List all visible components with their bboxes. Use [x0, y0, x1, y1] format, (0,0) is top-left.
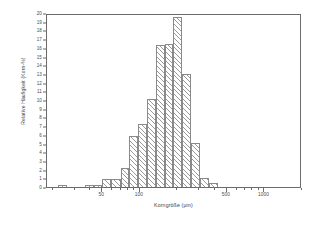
x-tick-mark-minor [301, 188, 302, 190]
x-tick-mark-minor [120, 188, 121, 190]
x-axis: 501005001000 [0, 0, 319, 227]
x-tick-mark-minor [198, 188, 199, 190]
x-tick-mark-minor [214, 188, 215, 190]
x-tick-mark-minor [251, 188, 252, 190]
x-tick-mark-major [139, 188, 140, 192]
x-tick-mark-minor [74, 188, 75, 190]
x-tick-mark-minor [258, 188, 259, 190]
x-tick-mark-major [101, 188, 102, 192]
x-tick-mark-major [226, 188, 227, 192]
x-tick-label: 50 [99, 192, 105, 197]
x-tick-mark-major [263, 188, 264, 192]
x-tick-mark-minor [176, 188, 177, 190]
x-tick-label: 1000 [258, 192, 269, 197]
x-axis-title: Korngröße (µm) [46, 202, 301, 208]
x-tick-label: 500 [222, 192, 230, 197]
x-tick-mark-minor [133, 188, 134, 190]
x-tick-mark-minor [236, 188, 237, 190]
x-tick-label: 100 [135, 192, 143, 197]
x-tick-mark-minor [111, 188, 112, 190]
histogram-chart: 01234567891011121314151617181920 Relativ… [0, 0, 319, 227]
x-tick-mark-minor [244, 188, 245, 190]
x-tick-mark-minor [127, 188, 128, 190]
x-tick-mark-minor [89, 188, 90, 190]
x-tick-mark-minor [52, 188, 53, 190]
